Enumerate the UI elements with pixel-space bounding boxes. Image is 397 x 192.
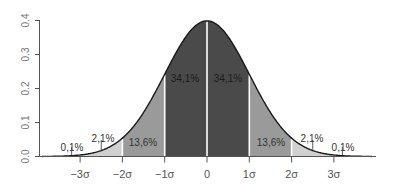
percent-label: 2,1% xyxy=(92,133,115,144)
normal-distribution-chart: 0.00.10.20.30.4−3σ−2σ−1σ01σ2σ3σ 0,1%2,1%… xyxy=(0,0,397,192)
percent-label: 2,1% xyxy=(301,133,324,144)
x-tick-label: 2σ xyxy=(285,168,298,180)
region-dividers xyxy=(80,22,334,157)
x-tick-label: 3σ xyxy=(327,168,340,180)
y-tick-label: 0.3 xyxy=(20,47,31,61)
x-tick-label: −1σ xyxy=(155,168,175,180)
region-4 xyxy=(207,21,249,157)
x-tick-label: 1σ xyxy=(243,168,256,180)
percent-label: 0,1% xyxy=(61,142,84,153)
y-tick-label: 0.0 xyxy=(20,149,31,163)
region-3 xyxy=(165,21,207,157)
percent-label: 13,6% xyxy=(257,137,285,148)
y-tick-label: 0.1 xyxy=(20,115,31,129)
percent-label: 13,6% xyxy=(129,137,157,148)
percent-label: 0,1% xyxy=(332,142,355,153)
y-tick-label: 0.2 xyxy=(20,81,31,95)
percent-label: 34,1% xyxy=(214,73,242,84)
x-tick-label: −3σ xyxy=(70,168,90,180)
y-tick-label: 0.4 xyxy=(20,13,31,27)
x-tick-label: 0 xyxy=(204,168,210,180)
x-tick-label: −2σ xyxy=(113,168,133,180)
percent-label: 34,1% xyxy=(171,73,199,84)
